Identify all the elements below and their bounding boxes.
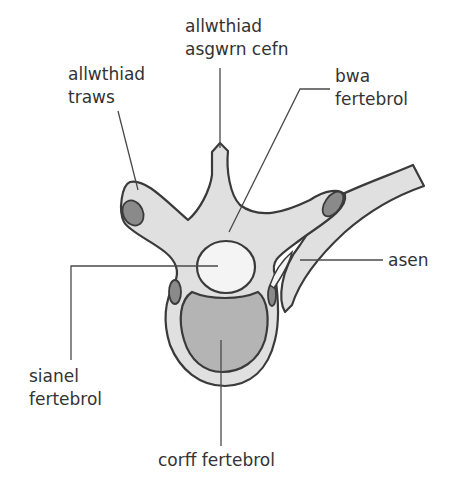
label-vertebral-arch-line1: bwa — [335, 66, 370, 86]
leader-transverse-process — [118, 111, 138, 190]
label-vertebral-arch-line2: fertebrol — [335, 89, 408, 109]
label-transverse-process-line2: traws — [68, 87, 115, 107]
label-vertebral-canal-line1: sianel — [29, 366, 79, 386]
label-rib: asen — [388, 250, 429, 270]
vertebra-diagram: allwthiad asgwrn cefn allwthiad traws bw… — [0, 0, 451, 493]
left-body-facet — [169, 280, 181, 304]
label-vertebral-body: corff fertebrol — [158, 450, 275, 470]
vertebral-canal-shape — [197, 241, 255, 293]
label-spinous-process-line1: allwthiad — [185, 16, 262, 36]
label-transverse-process-line1: allwthiad — [68, 64, 145, 84]
label-spinous-process-line2: asgwrn cefn — [185, 39, 288, 59]
label-vertebral-canal-line2: fertebrol — [29, 389, 102, 409]
